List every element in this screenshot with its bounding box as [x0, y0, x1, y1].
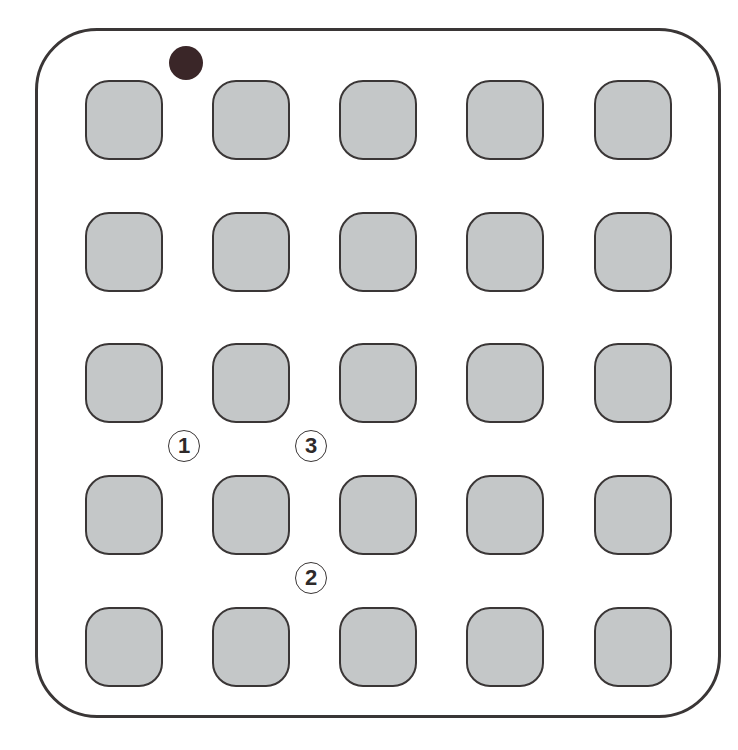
- pad-r2-c4: [466, 212, 544, 292]
- pad-r2-c2: [212, 212, 290, 292]
- label-2-circle: 2: [295, 562, 327, 594]
- pad-r3-c2: [212, 343, 290, 423]
- pad-r1-c4: [466, 80, 544, 160]
- pad-r3-c1: [85, 343, 163, 423]
- pad-r4-c3: [339, 475, 417, 555]
- label-3-text: 3: [305, 435, 317, 457]
- label-3-circle: 3: [295, 430, 327, 462]
- pad-r1-c3: [339, 80, 417, 160]
- pad-r3-c3: [339, 343, 417, 423]
- pad-r4-c2: [212, 475, 290, 555]
- pad-r1-c1: [85, 80, 163, 160]
- pad-r5-c2: [212, 607, 290, 687]
- pad-r5-c1: [85, 607, 163, 687]
- pad-r2-c5: [594, 212, 672, 292]
- pin1-marker-dot: [169, 46, 203, 80]
- pad-r4-c1: [85, 475, 163, 555]
- label-1-circle: 1: [168, 430, 200, 462]
- pad-r4-c4: [466, 475, 544, 555]
- pad-r1-c5: [594, 80, 672, 160]
- label-1-text: 1: [178, 435, 190, 457]
- pad-r4-c5: [594, 475, 672, 555]
- pad-r2-c3: [339, 212, 417, 292]
- pad-r1-c2: [212, 80, 290, 160]
- pad-r5-c5: [594, 607, 672, 687]
- pad-r2-c1: [85, 212, 163, 292]
- pad-r5-c4: [466, 607, 544, 687]
- pad-r5-c3: [339, 607, 417, 687]
- label-2-text: 2: [305, 567, 317, 589]
- pad-r3-c5: [594, 343, 672, 423]
- pad-r3-c4: [466, 343, 544, 423]
